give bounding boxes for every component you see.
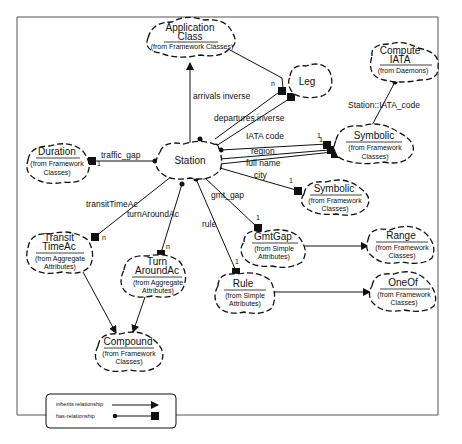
- mult-city-1: 1: [289, 177, 293, 184]
- mult-transit-n: n: [102, 234, 106, 241]
- node-subtitle: (from Framework: [102, 350, 156, 358]
- label-departures-inverse: departures inverse: [214, 113, 285, 123]
- edge-arrivals-inverse: [230, 50, 283, 88]
- node-transit-timeac[interactable]: Transit TimeAc (from Aggregate Attribute…: [27, 232, 93, 273]
- mult-gmtgap-1: 1: [256, 214, 260, 221]
- has-end-symbolic-b: [294, 187, 302, 195]
- node-subtitle: (from Framework Classes): [151, 43, 233, 51]
- node-title: Duration: [38, 146, 76, 157]
- node-subtitle: Classes): [321, 205, 348, 213]
- node-subtitle: (from Simple: [225, 292, 265, 300]
- node-title: GmtGap: [254, 231, 292, 242]
- node-title: Symbolic: [354, 130, 395, 141]
- label-station-iata-code: Station::IATA_code: [348, 100, 420, 110]
- label-gmt-gap: gmt_gap: [211, 190, 244, 200]
- node-compound[interactable]: Compound (from Framework Classes): [95, 332, 162, 371]
- has-start-arrivals: [198, 137, 203, 142]
- node-rule[interactable]: Rule (from Simple Attributes): [215, 273, 275, 313]
- node-subtitle: (from Framework: [377, 291, 431, 299]
- label-arrivals-inverse: arrivals inverse: [193, 91, 250, 101]
- node-symbolic-b[interactable]: Symbolic (from Framework Classes): [301, 180, 368, 215]
- node-title: Symbolic: [314, 183, 355, 194]
- mult-turn-n: n: [166, 243, 170, 250]
- node-subtitle: Attributes): [142, 287, 174, 295]
- node-title: OneOf: [388, 277, 418, 288]
- node-title: Station: [174, 155, 205, 166]
- label-turn-aroundac: turnAroundAc: [127, 209, 180, 219]
- node-subtitle: Classes): [43, 169, 70, 177]
- node-subtitle: (from Daemons): [378, 67, 429, 75]
- node-subtitle: Classes): [390, 299, 417, 307]
- has-end-leg-1: [278, 87, 286, 95]
- node-title: Compound: [104, 336, 153, 347]
- mult-rule-1: 1: [235, 258, 239, 265]
- node-subtitle: (from Framework: [308, 197, 362, 205]
- diagram-frame-border: [17, 17, 438, 415]
- node-subtitle: Classes): [388, 252, 415, 260]
- node-subtitle: Attributes): [229, 300, 261, 308]
- node-range[interactable]: Range (from Framework Classes): [367, 226, 434, 263]
- mult-traffic-1: 1: [97, 160, 101, 167]
- mult-leg-n: n: [271, 80, 275, 87]
- node-title: IATA: [390, 54, 411, 65]
- node-station[interactable]: Station: [156, 141, 222, 179]
- has-end-transit: [91, 233, 99, 241]
- legend-has-dot: [113, 414, 117, 418]
- label-city: city: [254, 170, 268, 180]
- label-rule: rule: [202, 219, 216, 229]
- node-subtitle: Classes): [115, 358, 142, 366]
- node-subtitle: (from Framework: [348, 144, 402, 152]
- edge-transit-compound: [83, 272, 116, 333]
- node-title: TimeAc: [42, 241, 76, 252]
- node-turn-aroundac[interactable]: Turn AroundAc (from Aggregate Attributes…: [121, 255, 186, 297]
- node-subtitle: Classes): [361, 153, 388, 161]
- legend-has-label: has-relationship: [56, 413, 95, 419]
- node-subtitle: (from Framework: [30, 160, 84, 168]
- node-subtitle: Attributes): [258, 253, 290, 261]
- node-subtitle: (from Simple: [254, 245, 294, 253]
- node-compute-iata[interactable]: Compute IATA (from Daemons): [371, 43, 439, 82]
- node-title: Class: [177, 31, 202, 42]
- node-leg[interactable]: Leg: [289, 64, 332, 98]
- node-title: Rule: [233, 278, 254, 289]
- uml-class-diagram: Application Class (from Framework Classe…: [0, 0, 462, 444]
- legend: inherits relationship has-relationship: [46, 394, 176, 428]
- has-start-turn: [180, 182, 185, 187]
- node-subtitle: (from Framework: [375, 244, 429, 252]
- node-subtitle: (from Aggregate: [35, 255, 85, 263]
- label-region: region: [251, 146, 275, 156]
- node-oneof[interactable]: OneOf (from Framework Classes): [369, 272, 435, 312]
- legend-inherits-label: inherits relationship: [56, 401, 103, 407]
- label-iata-code: IATA code: [246, 131, 284, 141]
- node-symbolic-a[interactable]: Symbolic (from Framework Classes): [334, 124, 413, 164]
- node-duration[interactable]: Duration (from Framework Classes): [27, 144, 89, 184]
- label-transit-timeac: transitTimeAc: [86, 199, 138, 209]
- legend-has-square: [151, 412, 159, 420]
- node-application-class[interactable]: Application Class (from Framework Classe…: [147, 17, 235, 57]
- node-title: Leg: [299, 76, 316, 87]
- node-title: AroundAc: [135, 265, 179, 276]
- label-full-name: full name: [246, 158, 281, 168]
- label-traffic-gap: traffic_gap: [101, 150, 141, 160]
- mult-iata-1b: 1: [319, 136, 323, 143]
- node-gmtgap[interactable]: GmtGap (from Simple Attributes): [241, 230, 305, 268]
- has-end-leg-2: [287, 93, 295, 101]
- node-title: Range: [386, 230, 416, 241]
- edge-turn-compound: [133, 297, 145, 332]
- node-subtitle: Attributes): [44, 263, 76, 271]
- node-subtitle: (from Aggregate: [133, 279, 183, 287]
